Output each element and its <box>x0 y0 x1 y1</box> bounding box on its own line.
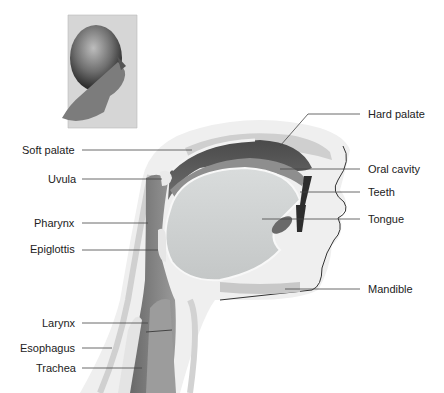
label-oral-cavity: Oral cavity <box>368 163 420 175</box>
label-trachea: Trachea <box>36 362 76 374</box>
label-pharynx: Pharynx <box>34 217 74 229</box>
label-teeth: Teeth <box>368 186 395 198</box>
label-hard-palate: Hard palate <box>368 108 425 120</box>
anatomy-diagram: Soft palate Uvula Pharynx Epiglottis Lar… <box>0 0 444 393</box>
profile-photo-inset <box>62 15 137 128</box>
label-larynx: Larynx <box>42 317 75 329</box>
label-soft-palate: Soft palate <box>22 144 75 156</box>
label-tongue: Tongue <box>368 213 404 225</box>
label-epiglottis: Epiglottis <box>30 243 75 255</box>
sagittal-section <box>80 120 350 393</box>
label-uvula: Uvula <box>48 173 76 185</box>
label-mandible: Mandible <box>368 283 413 295</box>
label-esophagus: Esophagus <box>20 342 75 354</box>
